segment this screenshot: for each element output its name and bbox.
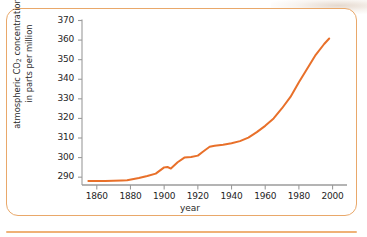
- y-tick-label: 350: [48, 54, 74, 64]
- x-tick-label: 1980: [281, 191, 317, 201]
- chart-plot-area: atmospheric CO2 concentration in parts p…: [0, 0, 367, 237]
- y-tick-label: 360: [48, 34, 74, 44]
- y-tick-label: 290: [48, 171, 74, 181]
- y-axis-label-line1: atmospheric CO2 concentration: [12, 0, 22, 129]
- figure-root: atmospheric CO2 concentration in parts p…: [0, 0, 367, 237]
- x-tick-label: 1900: [146, 191, 182, 201]
- y-axis-label: atmospheric CO2 concentration in parts p…: [12, 0, 35, 149]
- x-tick-label: 1940: [214, 191, 250, 201]
- y-tick-label: 300: [48, 152, 74, 162]
- y-axis-label-line2: in parts per million: [24, 25, 34, 103]
- x-tick-label: 1960: [247, 191, 283, 201]
- y-tick-label: 320: [48, 112, 74, 122]
- y-tick-label: 330: [48, 93, 74, 103]
- x-tick-label: 2000: [315, 191, 351, 201]
- y-axis-label-subscript: 2: [15, 58, 22, 62]
- x-tick-label: 1920: [180, 191, 216, 201]
- y-tick-label: 340: [48, 73, 74, 83]
- data-line-co2: [88, 39, 329, 182]
- x-tick-label: 1860: [79, 191, 115, 201]
- y-tick-label: 370: [48, 15, 74, 25]
- y-tick-label: 310: [48, 132, 74, 142]
- x-axis-label: year: [130, 203, 250, 213]
- x-tick-label: 1880: [112, 191, 148, 201]
